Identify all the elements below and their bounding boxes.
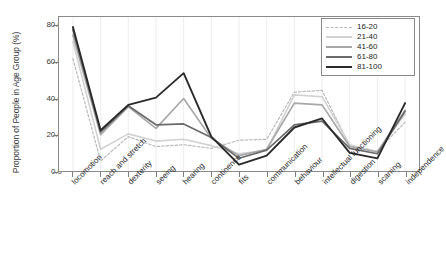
y-tick-mark [53,172,58,173]
legend-label: 81-100 [357,62,382,72]
legend-swatch [326,56,352,58]
legend-item[interactable]: 81-100 [326,62,410,72]
legend-swatch [326,66,352,68]
legend-label: 41-60 [357,42,377,52]
legend-swatch [326,46,352,48]
y-axis-title: Proportion of People in Age Group (%) [8,15,24,190]
legend-label: 16-20 [357,22,377,32]
legend-item[interactable]: 41-60 [326,42,410,52]
legend-swatch [326,36,352,38]
legend-item[interactable]: 16-20 [326,22,410,32]
legend-swatch [326,27,352,28]
legend: 16-2021-4041-6061-8081-100 [321,18,415,76]
legend-item[interactable]: 21-40 [326,32,410,42]
legend-label: 61-80 [357,52,377,62]
legend-item[interactable]: 61-80 [326,52,410,62]
legend-label: 21-40 [357,32,377,42]
